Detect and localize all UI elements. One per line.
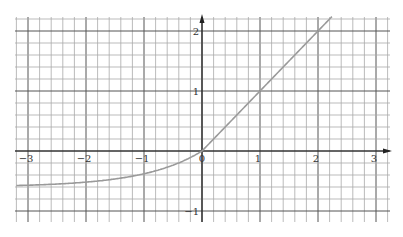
x-tick-label: 1 [255,153,261,164]
x-tick-label: −2 [77,153,92,164]
y-tick-label: −1 [184,206,199,217]
y-axis-arrow-icon [200,14,205,23]
y-tick-label: 1 [193,86,199,97]
x-tick-label: −1 [135,153,150,164]
x-tick-label: 3 [371,153,377,164]
x-tick-label: 2 [313,153,319,164]
x-tick-label: −3 [19,153,34,164]
elu-chart: −3−2−1012321−1 [0,0,403,237]
axes [15,14,392,222]
function-curve [16,17,332,186]
y-tick-label: 2 [193,26,199,37]
x-tick-label: 0 [199,153,205,164]
